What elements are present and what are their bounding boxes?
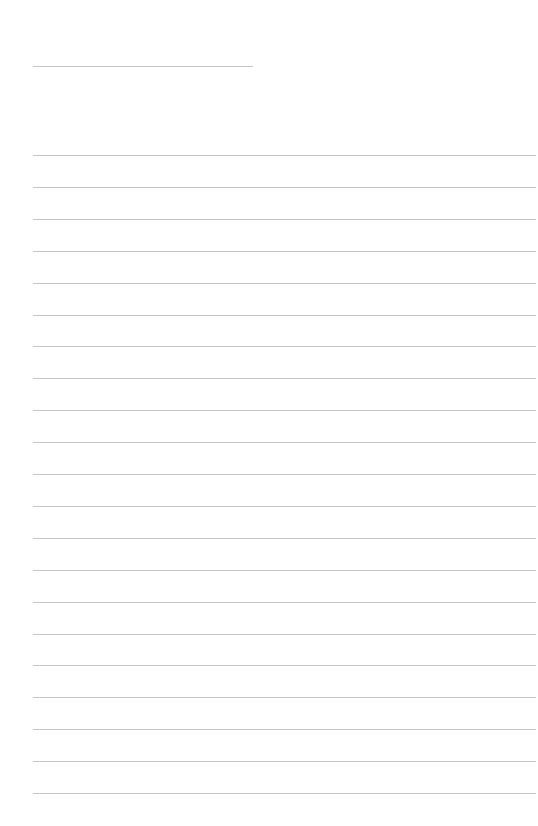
ruled-line [33, 538, 536, 539]
ruled-line [33, 251, 536, 252]
ruled-line [33, 474, 536, 475]
ruled-line [33, 187, 536, 188]
ruled-line [33, 346, 536, 347]
ruled-line [33, 283, 536, 284]
ruled-line [33, 634, 536, 635]
ruled-line [33, 315, 536, 316]
ruled-line [33, 410, 536, 411]
ruled-line [33, 219, 536, 220]
ruled-line [33, 602, 536, 603]
ruled-line [33, 155, 536, 156]
ruled-line [33, 665, 536, 666]
title-line [33, 66, 253, 67]
ruled-line [33, 570, 536, 571]
ruled-line [33, 378, 536, 379]
ruled-line [33, 793, 536, 794]
ruled-line [33, 442, 536, 443]
ruled-line [33, 697, 536, 698]
ruled-line [33, 506, 536, 507]
ruled-line [33, 729, 536, 730]
ruled-line [33, 761, 536, 762]
